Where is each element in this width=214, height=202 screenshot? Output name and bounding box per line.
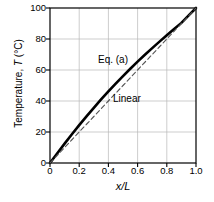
data-curves: [50, 8, 196, 163]
curve-linear: [50, 8, 196, 163]
x-tick-label: 0.6: [124, 166, 152, 176]
x-tick-label: 0.2: [65, 166, 93, 176]
x-tick-label: 0.8: [153, 166, 181, 176]
curve-label-eq-a: Eq. (a): [98, 54, 128, 65]
x-tick-label-group: 00.20.40.60.81.0: [0, 166, 214, 180]
x-tick-label: 0.4: [94, 166, 122, 176]
chart-figure: Temperature, T (°C) 020406080100 Eq. (a)…: [0, 0, 214, 202]
x-tick-label: 1.0: [182, 166, 210, 176]
x-axis-title: x/L: [50, 180, 196, 192]
x-tick-label: 0: [36, 166, 64, 176]
curve-label-linear: Linear: [113, 93, 141, 104]
